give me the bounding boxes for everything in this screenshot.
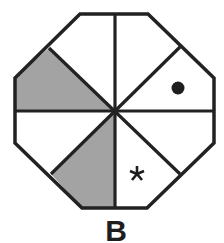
figure-label: B (0, 214, 224, 243)
sector-dividers (15, 14, 214, 208)
shaded-sector-bottom-left (51, 111, 115, 208)
asterisk-icon (130, 166, 144, 180)
shaded-sector-left-upper (15, 48, 115, 111)
dot-icon (172, 82, 185, 95)
octagon-diagram (0, 0, 224, 243)
